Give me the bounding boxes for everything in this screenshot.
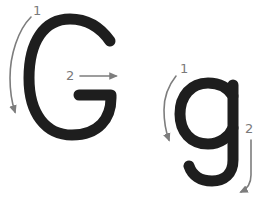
down-hook-arrow-icon [241,140,251,192]
uppercase-g-stroke-2: 2 [66,68,116,83]
stroke-number-1: 1 [33,3,41,18]
stroke-number-2: 2 [66,68,74,83]
lowercase-g-letter [180,83,233,181]
lowercase-g-shape [180,83,233,144]
curved-arrow-icon [164,76,176,140]
lowercase-g-stroke-2: 2 [241,121,253,192]
stroke-number-2: 2 [245,121,253,136]
letter-formation-diagram: 1 2 1 2 [0,0,268,221]
stroke-number-1: 1 [180,61,188,76]
